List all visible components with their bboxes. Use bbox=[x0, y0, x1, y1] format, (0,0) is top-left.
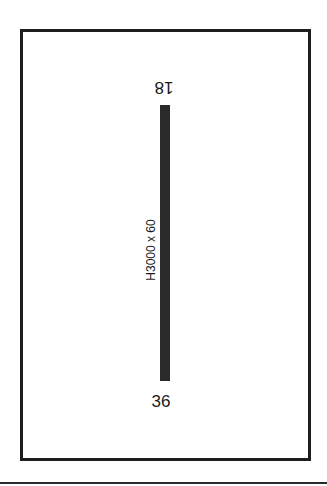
runway-dimensions-label: H3000 x 60 bbox=[145, 219, 157, 280]
bottom-separator-line bbox=[0, 482, 327, 484]
runway-end-18-label: 18 bbox=[144, 79, 184, 96]
runway-end-36-label: 36 bbox=[141, 393, 181, 410]
runway-strip bbox=[160, 105, 170, 381]
